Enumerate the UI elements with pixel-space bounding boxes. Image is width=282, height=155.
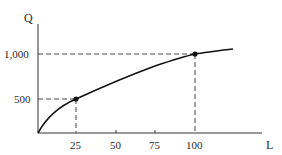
x-tick-label-75: 75 xyxy=(149,139,161,151)
production-curve xyxy=(38,49,233,133)
production-function-chart: Q L 1,000 500 25 50 75 100 xyxy=(0,0,282,155)
data-point-25-500 xyxy=(73,96,78,101)
y-tick-label-1000: 1,000 xyxy=(4,48,29,60)
x-tick-label-100: 100 xyxy=(186,139,203,151)
x-tick-label-25: 25 xyxy=(70,139,82,151)
y-tick-label-500: 500 xyxy=(14,93,31,105)
data-point-100-1000 xyxy=(192,51,197,56)
y-axis-label: Q xyxy=(24,11,33,25)
x-axis-label: L xyxy=(266,138,273,152)
x-tick-label-50: 50 xyxy=(110,139,122,151)
